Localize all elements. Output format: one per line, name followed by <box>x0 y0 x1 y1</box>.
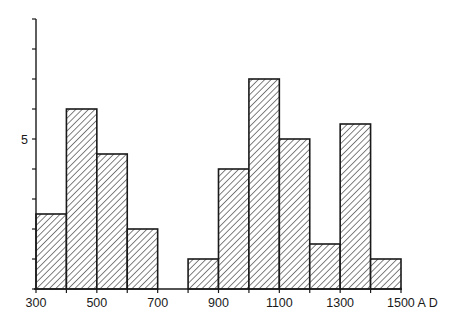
x-tick-label: 1300 <box>326 296 354 310</box>
histogram-bar <box>249 79 279 289</box>
histogram-bar <box>66 109 96 289</box>
histogram-bars <box>36 79 401 289</box>
x-tick-label: 500 <box>86 296 107 310</box>
x-tick-label: 900 <box>208 296 229 310</box>
y-axis: 5 <box>21 19 36 289</box>
histogram-bar <box>36 214 66 289</box>
histogram-bar <box>188 259 218 289</box>
x-tick-label: 300 <box>26 296 47 310</box>
histogram-chart: 5 300500700900110013001500 A D <box>0 0 460 321</box>
x-tick-label: 1500 A D <box>387 296 438 310</box>
histogram-bar <box>97 154 127 289</box>
histogram-bar <box>371 259 401 289</box>
histogram-bar <box>127 229 157 289</box>
histogram-bar <box>219 169 249 289</box>
x-axis: 300500700900110013001500 A D <box>26 289 438 310</box>
x-tick-label: 1100 <box>266 296 293 310</box>
histogram-bar <box>340 124 370 289</box>
histogram-bar <box>310 244 340 289</box>
x-tick-label: 700 <box>147 296 168 310</box>
histogram-bar <box>279 139 309 289</box>
y-tick-label: 5 <box>21 133 28 147</box>
